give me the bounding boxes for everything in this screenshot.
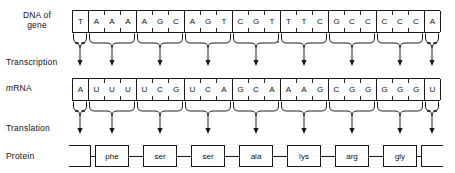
transcription-arrow-group (72, 32, 88, 68)
dna-base: C (392, 11, 408, 32)
amino-acid-box: ala (239, 145, 273, 167)
peptide-bond-link (369, 156, 383, 157)
mrna-base: C (248, 79, 264, 100)
mrna-base: C (152, 79, 168, 100)
row-label-translation: Translation (6, 123, 68, 133)
mrna-base: G (360, 79, 376, 100)
dna-base: C (344, 11, 360, 32)
scan-speck (277, 41, 279, 43)
dna-base: T (280, 11, 296, 32)
translation-arrow-group (88, 100, 136, 136)
mrna-strip: AUUUUCGUCAGCAAAGCGGGGGU (72, 78, 440, 101)
protein-chain: pheserseralalysarggly (72, 145, 440, 167)
translation-arrow-group (136, 100, 184, 136)
peptide-bond-link (273, 156, 287, 157)
mrna-base: C (200, 79, 216, 100)
peptide-bond-link (417, 156, 421, 157)
amino-acid-box: ser (191, 145, 225, 167)
dna-strip: TAAAAGCAGTCGTTTCGCCCCCA (72, 10, 440, 33)
mrna-base: A (264, 79, 280, 100)
row-label-dna: DNA of gene (6, 10, 68, 30)
translation-arrow-group (232, 100, 280, 136)
dna-base: A (104, 11, 120, 32)
mrna-base: A (216, 79, 232, 100)
dna-base: T (264, 11, 280, 32)
dna-base: C (408, 11, 424, 32)
peptide-bond-link (321, 156, 335, 157)
protein-chain-terminus (69, 145, 91, 167)
mrna-base: U (424, 79, 440, 100)
dna-base: A (184, 11, 200, 32)
dna-base: C (232, 11, 248, 32)
mrna-base: A (72, 79, 88, 100)
amino-acid-box: ser (143, 145, 177, 167)
translation-arrow-group (280, 100, 328, 136)
translation-arrow-group (72, 100, 88, 136)
transcription-arrow-group (424, 32, 440, 68)
translation-brace-layer (72, 100, 440, 136)
mrna-base: U (104, 79, 120, 100)
dna-base: C (168, 11, 184, 32)
mrna-base: G (344, 79, 360, 100)
mrna-label-suffix: RNA (13, 83, 32, 93)
mrna-base: G (168, 79, 184, 100)
dna-base: A (424, 11, 440, 32)
mrna-base: U (136, 79, 152, 100)
row-label-transcription: Transcription (6, 57, 68, 67)
mrna-end-rule (440, 79, 441, 100)
transcription-arrow-group (328, 32, 376, 68)
mrna-base: G (232, 79, 248, 100)
protein-chain-terminus (421, 145, 443, 167)
translation-arrow-group (376, 100, 424, 136)
mrna-base: A (280, 79, 296, 100)
mrna-base: C (328, 79, 344, 100)
translation-arrow-group (328, 100, 376, 136)
dna-base: A (136, 11, 152, 32)
peptide-bond-link (129, 156, 143, 157)
transcription-arrow-group (88, 32, 136, 68)
peptide-bond-link (225, 156, 239, 157)
transcription-arrow-group (232, 32, 280, 68)
mrna-base: U (120, 79, 136, 100)
dna-base: A (120, 11, 136, 32)
translation-arrow-group (184, 100, 232, 136)
dna-base: T (296, 11, 312, 32)
transcription-arrow-group (376, 32, 424, 68)
dna-base: G (152, 11, 168, 32)
peptide-bond-link (91, 156, 95, 157)
dna-base: C (312, 11, 328, 32)
dna-base: G (328, 11, 344, 32)
dna-base: A (88, 11, 104, 32)
dna-base: C (360, 11, 376, 32)
mrna-base: A (296, 79, 312, 100)
amino-acid-box: arg (335, 145, 369, 167)
central-dogma-diagram: DNA of gene Transcription mRNA Translati… (0, 0, 455, 173)
transcription-arrow-group (136, 32, 184, 68)
dna-base: G (200, 11, 216, 32)
dna-base: T (72, 11, 88, 32)
row-label-mrna: mRNA (6, 83, 68, 93)
peptide-bond-link (177, 156, 191, 157)
mrna-base: G (376, 79, 392, 100)
amino-acid-box: phe (95, 145, 129, 167)
translation-arrow-group (424, 100, 440, 136)
mrna-base: G (392, 79, 408, 100)
mrna-base: U (88, 79, 104, 100)
mrna-base: U (184, 79, 200, 100)
dna-base: T (216, 11, 232, 32)
dna-base: G (248, 11, 264, 32)
dna-base: C (376, 11, 392, 32)
amino-acid-box: lys (287, 145, 321, 167)
mrna-base: G (408, 79, 424, 100)
transcription-arrow-group (184, 32, 232, 68)
amino-acid-box: gly (383, 145, 417, 167)
transcription-arrow-group (280, 32, 328, 68)
dna-end-rule (440, 11, 441, 32)
mrna-base: G (312, 79, 328, 100)
transcription-brace-layer (72, 32, 440, 68)
row-label-protein: Protein (6, 151, 68, 161)
